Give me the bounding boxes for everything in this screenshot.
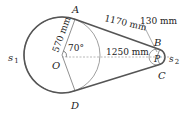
label-s2: s2 [169,54,179,66]
label-O: O [52,60,60,71]
belt-diagram: A B C D O P s1 s2 570 mm 70° 1170 mm 130… [0,0,188,115]
dim-center-distance: 1250 mm [106,47,149,57]
angle-arc [63,51,66,57]
belt-tangent-DC [75,65,160,91]
label-A: A [71,4,79,15]
label-B: B [153,37,161,48]
radius-OD [62,55,75,91]
dim-small-radius: 130 mm [140,16,178,26]
label-s1: s1 [8,52,19,65]
dim-angle: 70° [68,43,84,53]
label-D: D [70,100,79,111]
label-C: C [158,70,166,81]
label-P: P [153,54,161,64]
